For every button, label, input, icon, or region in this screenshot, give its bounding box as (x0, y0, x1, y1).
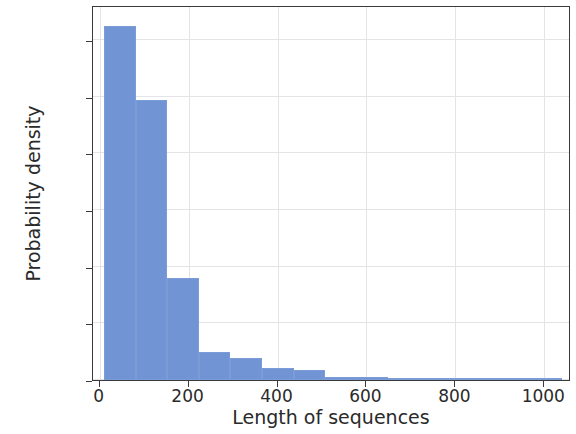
histogram-figure: 0.0000.0010.0020.0030.0040.0050.006 0200… (0, 0, 576, 434)
x-tick-mark (365, 381, 366, 387)
histogram-bar (104, 26, 136, 380)
x-tick-label: 200 (143, 386, 233, 406)
x-tick-mark (454, 381, 455, 387)
y-tick-mark (86, 98, 92, 99)
histogram-bar (262, 368, 294, 380)
x-tick-label: 1000 (498, 386, 576, 406)
histogram-bars (93, 7, 569, 380)
histogram-bar (357, 377, 389, 380)
x-tick-mark (188, 381, 189, 387)
x-tick-mark (543, 381, 544, 387)
histogram-bar (230, 358, 262, 380)
plot-area (92, 6, 570, 381)
histogram-bar (388, 378, 420, 380)
histogram-bar (483, 378, 515, 380)
histogram-bar (546, 378, 562, 380)
x-tick-label: 0 (54, 386, 144, 406)
y-tick-mark (86, 154, 92, 155)
histogram-bar (199, 352, 231, 380)
histogram-bar (136, 100, 168, 380)
y-tick-mark (86, 381, 92, 382)
x-axis-label: Length of sequences (92, 406, 570, 428)
x-tick-label: 400 (232, 386, 322, 406)
x-tick-mark (277, 381, 278, 387)
histogram-bar (294, 370, 326, 380)
histogram-bar (167, 278, 199, 380)
y-tick-mark (86, 41, 92, 42)
y-tick-mark (86, 211, 92, 212)
histogram-bar (420, 378, 452, 380)
x-tick-mark (99, 381, 100, 387)
histogram-bar (325, 377, 357, 380)
y-tick-mark (86, 268, 92, 269)
y-axis-label-container: Probability density (22, 6, 46, 381)
histogram-bar (515, 378, 547, 380)
x-tick-label: 800 (409, 386, 499, 406)
histogram-bar (451, 378, 483, 380)
y-axis-label: Probability density (22, 6, 44, 381)
y-tick-mark (86, 324, 92, 325)
x-tick-label: 600 (320, 386, 410, 406)
